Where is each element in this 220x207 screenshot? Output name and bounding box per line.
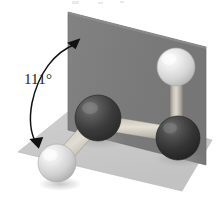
atom-dark-left	[75, 95, 121, 141]
atom-dark-right	[156, 116, 200, 160]
angle-label: 111°	[10, 72, 66, 87]
molecule-scene	[0, 0, 220, 207]
molecule-figure: 111°	[0, 0, 220, 207]
atom-light-lower	[38, 144, 76, 182]
atom-light-upper	[157, 48, 195, 86]
